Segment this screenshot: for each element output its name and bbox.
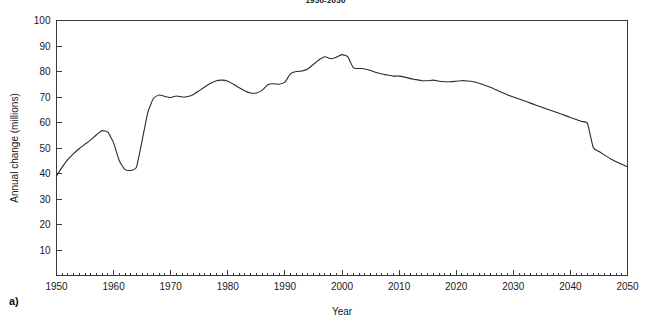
y-axis-tick-labels: 102030405060708090100 <box>34 15 51 256</box>
line-chart: 102030405060708090100 195019601970198019… <box>0 0 651 327</box>
y-tick-label: 80 <box>39 66 51 77</box>
panel-label: a) <box>9 295 19 307</box>
y-tick-label: 60 <box>39 117 51 128</box>
x-tick-label: 1990 <box>274 281 297 292</box>
x-tick-label: 2020 <box>445 281 468 292</box>
x-axis-title: Year <box>332 306 353 317</box>
figure-panel-a: 1950-2050 102030405060708090100 19501960… <box>0 0 651 327</box>
axis-frame <box>57 21 628 276</box>
x-tick-label: 2040 <box>559 281 582 292</box>
y-tick-label: 100 <box>34 15 51 26</box>
data-series-line <box>57 55 628 176</box>
x-tick-label: 2010 <box>388 281 411 292</box>
y-axis-title: Annual change (millions) <box>9 93 20 203</box>
y-tick-label: 70 <box>39 92 51 103</box>
x-tick-label: 1980 <box>217 281 240 292</box>
x-tick-label: 1950 <box>45 281 68 292</box>
x-tick-label: 1970 <box>160 281 183 292</box>
y-tick-label: 10 <box>39 245 51 256</box>
y-axis-ticks <box>57 21 62 251</box>
x-tick-label: 2030 <box>502 281 525 292</box>
x-tick-label: 2050 <box>616 281 639 292</box>
y-tick-label: 50 <box>39 143 51 154</box>
y-tick-label: 30 <box>39 194 51 205</box>
plot-frame <box>57 21 628 276</box>
y-tick-label: 40 <box>39 168 51 179</box>
y-tick-label: 20 <box>39 219 51 230</box>
x-tick-label: 1960 <box>102 281 125 292</box>
x-axis-tick-labels: 1950196019701980199020002010202020302040… <box>45 281 639 292</box>
x-tick-label: 2000 <box>331 281 354 292</box>
y-tick-label: 90 <box>39 41 51 52</box>
